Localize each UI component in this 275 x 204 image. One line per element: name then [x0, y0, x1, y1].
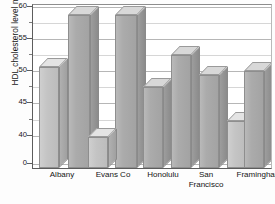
x-label-framingham: Framingham — [222, 170, 275, 180]
y-tick-label: 0 — [3, 158, 27, 167]
albany-bar-2-front-face — [68, 15, 90, 168]
y-tick-label: 45 — [3, 97, 27, 106]
x-label-line2: Francisco — [180, 180, 232, 190]
x-axis-category-labels: AlbanyEvans CoHonoluluSanFranciscoFramin… — [32, 170, 272, 202]
sanfrancisco-bar-1-front-face — [199, 75, 219, 168]
framingham-bar-1-front-face — [244, 71, 264, 168]
gridline-major — [33, 7, 271, 8]
albany-bar-1-front-face — [39, 67, 59, 168]
honolulu-bar-1 — [143, 87, 163, 168]
x-label-albany: Albany — [34, 170, 90, 180]
albany-bar-1 — [39, 67, 59, 168]
honolulu-bar-2-front-face — [171, 55, 191, 168]
honolulu-bar-2 — [171, 55, 191, 168]
honolulu-bar-1-front-face — [143, 87, 163, 168]
hdl-cholesterol-bar-chart: HDL cholesterol level mg/dl 60555045400 … — [0, 0, 275, 204]
albany-bar-2 — [68, 15, 90, 168]
y-tick-label: 60 — [3, 1, 27, 10]
framingham-bar-1 — [244, 71, 264, 168]
y-axis-title: HDL cholesterol level mg/dl — [11, 0, 20, 110]
albany-bar-1-side-face — [59, 58, 68, 168]
sanfrancisco-bar-1 — [199, 75, 219, 168]
framingham-bar-1-side-face — [264, 62, 272, 168]
y-tick-label: 40 — [3, 130, 27, 139]
evansco-bar-1-front-face — [115, 15, 137, 168]
plot-area — [32, 4, 272, 169]
y-tick-label: 50 — [3, 65, 27, 74]
y-tick-label: 55 — [3, 33, 27, 42]
evansco-bar-2 — [88, 137, 108, 168]
evansco-bar-1 — [115, 15, 137, 168]
x-label-evans-co: Evans Co — [84, 170, 142, 180]
evansco-bar-2-front-face — [88, 137, 108, 168]
